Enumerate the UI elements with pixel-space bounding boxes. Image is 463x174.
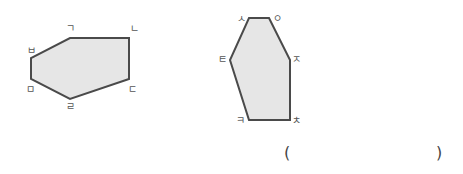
answer-close-paren: ): [436, 143, 442, 162]
vertex-label: ㄷ: [128, 84, 137, 95]
hexagon-right: [230, 18, 290, 120]
vertex-label: ㅅ: [237, 13, 246, 24]
vertex-label: ㅊ: [292, 115, 301, 126]
answer-field[interactable]: [300, 143, 430, 163]
vertex-label: ㅈ: [292, 54, 301, 65]
vertex-label: ㅁ: [26, 84, 35, 95]
answer-open-paren: (: [284, 143, 290, 162]
vertex-label: ㄱ: [66, 23, 75, 34]
vertex-label: ㅌ: [218, 54, 227, 65]
vertex-label: ㄹ: [66, 101, 75, 112]
vertex-label: ㅇ: [273, 13, 282, 24]
vertex-label: ㅂ: [27, 45, 36, 56]
vertex-label: ㄴ: [130, 23, 139, 34]
hexagon-left: [31, 38, 129, 99]
vertex-label: ㅋ: [236, 115, 245, 126]
